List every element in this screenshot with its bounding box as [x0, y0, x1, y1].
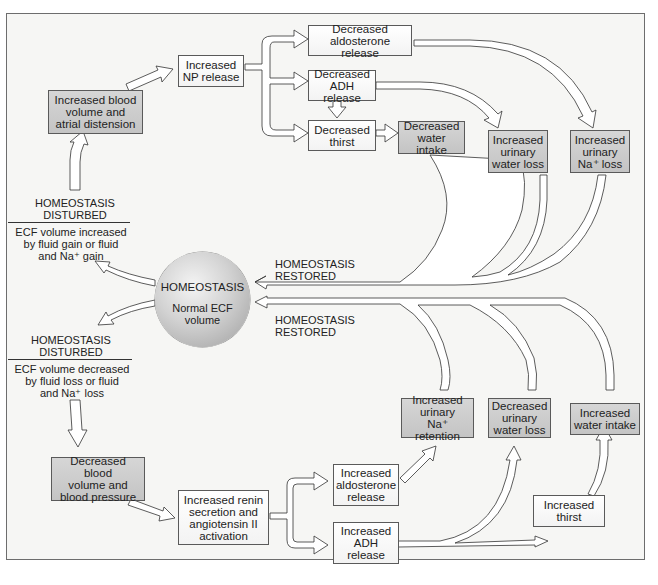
box-increased-water-intake: Increased water intake — [570, 403, 640, 435]
arrow-thirst-to-intake — [376, 124, 398, 142]
homeostasis-sphere: HOMEOSTASIS Normal ECF volume — [155, 252, 250, 347]
box-increased-adh: Increased ADH release — [333, 522, 399, 564]
arrow-aldo-to-na-retention — [400, 446, 436, 483]
upper-restored-label: HOMEOSTASIS RESTORED — [275, 258, 365, 282]
lower-restored-label: HOMEOSTASIS RESTORED — [275, 314, 365, 338]
box-increased-thirst: Increased thirst — [533, 495, 605, 527]
arrow-np-branch — [245, 30, 308, 142]
box-decreased-aldosterone: Decreased aldosterone release — [308, 25, 412, 56]
box-increased-na-retention: Increased urinary Na⁺ retention — [401, 398, 474, 438]
box-increased-np-release: Increased NP release — [178, 55, 244, 87]
lower-disturbed-title: HOMEOSTASIS DISTURBED — [16, 334, 126, 358]
box-decreased-water-intake: Decreased water intake — [398, 121, 465, 154]
arrow-up-to-blood-volume — [70, 131, 88, 190]
box-increased-urinary-water-loss: Increased urinary water loss — [488, 130, 548, 173]
homeostasis-title: HOMEOSTASIS — [155, 281, 250, 293]
lower-divider — [8, 359, 132, 360]
arrow-renin-branch — [270, 472, 328, 554]
box-decreased-urinary-water-loss: Decreased urinary water loss — [488, 398, 551, 438]
homeostasis-subtitle: Normal ECF volume — [155, 302, 250, 326]
arrow-adh-to-thirst — [328, 101, 346, 118]
arrow-sphere-to-disturbed-lower — [98, 300, 155, 325]
box-increased-renin: Increased renin secretion and angiotensi… — [178, 490, 269, 545]
arrow-to-decreased-blood — [68, 400, 87, 447]
upper-disturbed-title: HOMEOSTASIS DISTURBED — [20, 197, 130, 221]
arrow-to-np-release — [126, 66, 173, 91]
upper-divider — [8, 222, 130, 223]
box-increased-blood-volume: Increased blood volume and atrial disten… — [48, 90, 143, 134]
upper-disturbed-desc: ECF volume increased by fluid gain or fl… — [10, 226, 132, 262]
arrow-sphere-to-disturbed-upper — [95, 261, 155, 286]
box-decreased-blood-volume: Decreased blood volume and blood pressur… — [51, 457, 145, 501]
box-decreased-adh: Decreased ADH release — [308, 70, 376, 101]
box-increased-aldosterone: Increased aldosterone release — [333, 464, 399, 506]
arrow-lower-restored — [255, 296, 614, 390]
box-increased-urinary-na-loss: Increased urinary Na⁺ loss — [570, 130, 630, 173]
arrow-thirst-to-water-intake — [588, 426, 612, 496]
lower-disturbed-desc: ECF volume decreased by fluid loss or fl… — [10, 363, 134, 399]
box-decreased-thirst: Decreased thirst — [308, 120, 376, 151]
